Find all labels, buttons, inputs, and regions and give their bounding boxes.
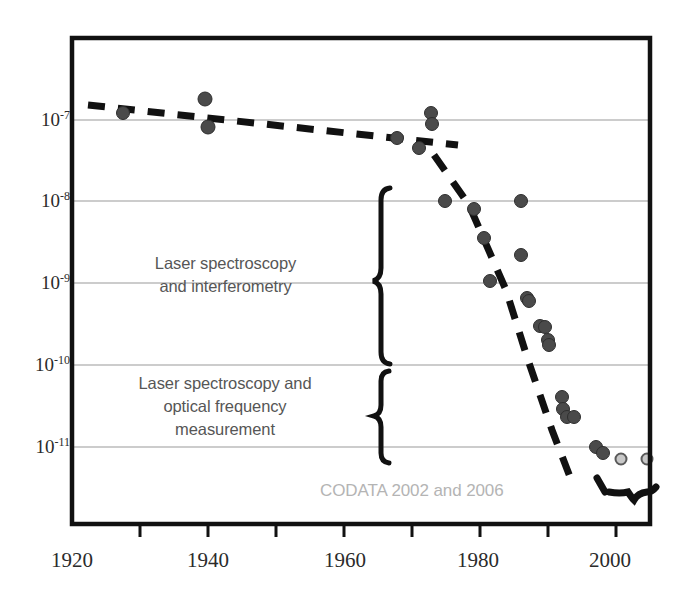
annotation-laser-interferometry: Laser spectroscopy and interferometry [88,252,363,298]
x-tick-label-1920: 1920 [51,548,93,573]
data-point [478,232,491,245]
y-tick-label-1e-10: 10-10 [35,354,70,376]
data-point [568,411,581,424]
data-point [543,339,556,352]
data-point [426,118,439,131]
x-tick-label-1980: 1980 [457,548,499,573]
data-point [391,132,404,145]
codata-2002-marker [616,454,627,465]
data-point [515,195,528,208]
y-tick-label-1e-8: 10-8 [41,190,70,212]
data-point [556,391,569,404]
y-tick-label-1e-7: 10-7 [41,109,70,131]
annotation-codata: CODATA 2002 and 2006 [320,479,504,502]
x-tick-label-2000: 2000 [589,548,631,573]
data-point [413,142,426,155]
y-tick-label-1e-9: 10-9 [41,272,70,294]
x-tick-label-1960: 1960 [324,548,366,573]
chart-figure: 10-7 10-8 10-9 10-10 10-11 1920 1940 196… [0,0,683,597]
data-point [539,321,552,334]
data-point [198,92,212,106]
data-point [515,249,528,262]
data-point [117,107,130,120]
y-tick-label-1e-11: 10-11 [35,436,70,458]
data-point [597,447,610,460]
annotation-optical-frequency: Laser spectroscopy and optical frequency… [80,372,370,440]
data-point [201,120,215,134]
uncertainty-vs-year-scatter-chart [0,0,683,597]
data-point [468,203,481,216]
data-point [439,195,452,208]
x-tick-label-1940: 1940 [187,548,229,573]
data-point [523,295,536,308]
data-point [484,275,497,288]
